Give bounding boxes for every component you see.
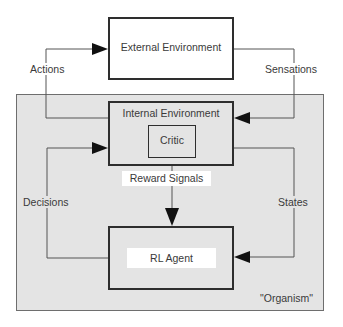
external-environment-label: External Environment	[110, 41, 232, 53]
rl-agent-label: RL Agent	[127, 248, 216, 268]
critic-label: Critic	[149, 134, 195, 146]
actions-label: Actions	[29, 63, 65, 75]
states-label: States	[277, 196, 309, 208]
decisions-label: Decisions	[22, 196, 70, 208]
sensations-arrow-icon	[234, 112, 250, 124]
actions-arrow-icon	[92, 43, 108, 55]
organism-label: "Organism"	[260, 292, 313, 304]
rl-agent-node: RL Agent	[108, 226, 234, 290]
decisions-arrow-icon	[92, 142, 108, 154]
external-environment-node: External Environment	[108, 17, 234, 80]
internal-environment-label: Internal Environment	[110, 107, 232, 119]
reward-arrow-icon	[165, 208, 179, 226]
states-arrow-icon	[234, 251, 250, 263]
sensations-label: Sensations	[264, 63, 318, 75]
reward-signals-label: Reward Signals	[122, 171, 211, 186]
critic-node: Critic	[148, 125, 196, 158]
